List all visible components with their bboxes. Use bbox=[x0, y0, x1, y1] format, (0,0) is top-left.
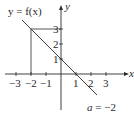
y-axis-label: y bbox=[64, 0, 70, 12]
function-label: y = f(x) bbox=[8, 5, 42, 18]
graph-diagram: y = f(x) y x −3 −2 −1 1 2 3 1 2 3 a = −2 bbox=[0, 0, 134, 116]
y-tick-label: 1 bbox=[53, 53, 59, 65]
x-tick-label: 1 bbox=[73, 77, 79, 89]
x-tick-label: 2 bbox=[88, 77, 94, 89]
x-tick-label: 3 bbox=[103, 77, 109, 89]
x-tick-label: −3 bbox=[9, 77, 21, 89]
x-tick-label: −2 bbox=[25, 77, 37, 89]
y-tick-label: 3 bbox=[53, 23, 59, 35]
annotation-label: a = −2 bbox=[87, 101, 116, 113]
y-tick-label: 2 bbox=[53, 38, 59, 50]
x-axis-label: x bbox=[128, 67, 134, 79]
y-axis-arrow-icon bbox=[59, 5, 63, 10]
x-tick-label: −1 bbox=[40, 77, 52, 89]
